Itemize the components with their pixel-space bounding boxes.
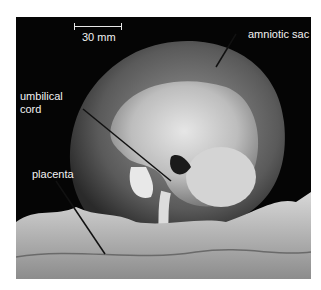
label-umbilical-cord-line2: cord bbox=[20, 103, 41, 115]
fetus-photograph: 30 mm amniotic sac umbilical cord placen… bbox=[16, 17, 311, 279]
scale-bar bbox=[74, 23, 122, 31]
label-placenta: placenta bbox=[32, 168, 74, 180]
label-amniotic-sac: amniotic sac bbox=[248, 28, 309, 40]
photo-illustration bbox=[16, 17, 311, 279]
label-umbilical-cord-line1: umbilical bbox=[20, 90, 63, 102]
scale-bar-label: 30 mm bbox=[82, 31, 116, 43]
fetus-head-shape bbox=[186, 147, 256, 207]
